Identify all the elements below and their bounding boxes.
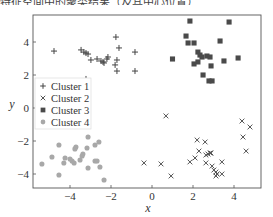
x-tick-label: −4	[64, 190, 76, 202]
circle-marker-icon	[61, 160, 66, 165]
square-marker-icon	[218, 38, 223, 43]
y-tick-label: 0	[24, 102, 30, 114]
y-tick-label: −4	[17, 168, 29, 180]
square-marker-icon	[187, 18, 192, 23]
circle-marker-icon	[56, 142, 61, 147]
y-axis-label: y	[8, 97, 15, 111]
square-marker-icon	[41, 108, 46, 113]
square-marker-icon	[170, 56, 175, 61]
scatter-chart: −4−2024−4−2024 Cluster 1Cluster 2Cluster…	[0, 0, 273, 217]
x-axis-label: x	[144, 201, 151, 215]
circle-marker-icon	[85, 166, 90, 171]
legend-label: Cluster 3	[51, 105, 89, 116]
square-marker-icon	[207, 54, 212, 59]
circle-marker-icon	[63, 155, 68, 160]
y-tick-label: 4	[24, 36, 30, 48]
circle-marker-icon	[49, 154, 54, 159]
circle-marker-icon	[97, 165, 102, 170]
circle-marker-icon	[101, 177, 106, 182]
legend-label: Cluster 2	[51, 93, 89, 104]
square-marker-icon	[186, 40, 191, 45]
x-tick-label: 2	[190, 190, 196, 202]
circle-marker-icon	[84, 145, 89, 150]
y-tick-label: 2	[24, 69, 30, 81]
x-tick-label: 4	[231, 190, 237, 202]
circle-marker-icon	[85, 134, 90, 139]
circle-marker-icon	[95, 158, 100, 163]
circle-marker-icon	[41, 120, 46, 125]
square-marker-icon	[183, 34, 188, 39]
square-marker-icon	[227, 19, 232, 24]
square-marker-icon	[200, 72, 205, 77]
square-marker-icon	[191, 40, 196, 45]
circle-marker-icon	[72, 146, 77, 151]
y-tick-label: −2	[17, 135, 29, 147]
circle-marker-icon	[56, 172, 61, 177]
legend-label: Cluster 4	[51, 117, 90, 128]
square-marker-icon	[210, 78, 215, 83]
square-marker-icon	[208, 63, 213, 68]
circle-marker-icon	[72, 160, 77, 165]
x-tick-label: −2	[105, 190, 117, 202]
legend-label: Cluster 1	[51, 81, 89, 92]
circle-marker-icon	[39, 161, 44, 166]
square-marker-icon	[191, 61, 196, 66]
square-marker-icon	[199, 54, 204, 59]
square-marker-icon	[236, 55, 241, 60]
legend: Cluster 1Cluster 2Cluster 3Cluster 4	[35, 78, 91, 129]
circle-marker-icon	[96, 139, 101, 144]
square-marker-icon	[221, 58, 226, 63]
circle-marker-icon	[80, 151, 85, 156]
